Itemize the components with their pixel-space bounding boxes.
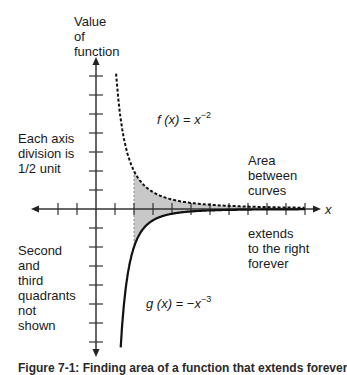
g-label-name: g <box>146 296 153 311</box>
g-label-eq: = − <box>172 296 194 311</box>
f-label-arg: (x) <box>164 112 179 127</box>
y-axis-title: Value of function <box>74 14 120 59</box>
g-label-exp: −3 <box>201 294 211 304</box>
f-label: f (x) = x−2 <box>157 108 211 127</box>
quadrant-note: Second and third quadrants not shown <box>18 243 76 333</box>
extends-note: extends to the right forever <box>248 226 309 271</box>
f-label-eq: = <box>179 112 194 127</box>
x-axis-right-arrow-icon <box>313 206 321 213</box>
f-label-name: f <box>157 112 161 127</box>
g-label-arg: (x) <box>157 296 172 311</box>
y-axis-down-arrow-icon <box>93 349 100 357</box>
area-note: Area between curves <box>248 153 297 198</box>
figure-caption: Figure 7-1: Finding area of a function t… <box>18 361 347 375</box>
scale-note: Each axis division is 1/2 unit <box>18 131 74 176</box>
g-label: g (x) = −x−3 <box>146 292 211 311</box>
f-label-exp: −2 <box>201 110 211 120</box>
y-axis <box>89 57 103 357</box>
x-axis-label: x <box>325 202 332 217</box>
x-axis-left-arrow-icon <box>31 206 39 213</box>
